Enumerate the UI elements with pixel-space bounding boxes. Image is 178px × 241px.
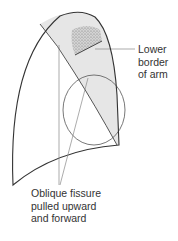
fissure-leader-diagonal xyxy=(60,78,88,185)
label-line: border xyxy=(138,56,168,69)
label-line: and forward xyxy=(31,212,101,225)
label-line: Lower xyxy=(138,43,168,56)
label-lower-border-of-arm: Lower border of arm xyxy=(138,43,168,81)
label-oblique-fissure: Oblique fissure pulled upward and forwar… xyxy=(31,187,101,225)
label-line: pulled upward xyxy=(31,200,101,213)
label-line: Oblique fissure xyxy=(31,187,101,200)
label-line: of arm xyxy=(138,68,168,81)
